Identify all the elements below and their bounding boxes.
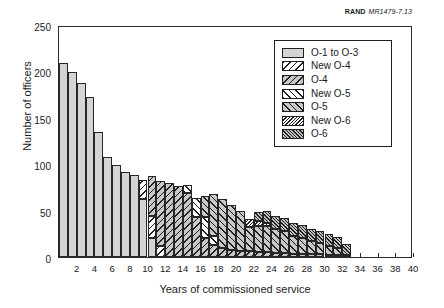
bar-year-10 [139, 180, 148, 257]
legend-swatch-icon [282, 89, 304, 99]
bar-segment-o-4 [307, 254, 316, 257]
bar-year-31 [325, 234, 334, 257]
bar-segment-o-4 [201, 238, 210, 257]
bar-year-13 [165, 183, 174, 257]
bar-segment-o-4 [218, 248, 227, 257]
bar-year-12 [156, 181, 165, 257]
bar-year-15 [183, 185, 192, 257]
legend-swatch-icon [282, 129, 304, 139]
bar-segment-o-6 [342, 244, 351, 255]
bar-segment-new-o-5 [201, 217, 210, 237]
x-axis-title: Years of commissioned service [58, 283, 412, 295]
source-credit: RANDMR1479-7.13 [345, 8, 412, 15]
legend-item-new-o-4: New O-4 [282, 60, 385, 74]
bar-year-17 [201, 196, 210, 257]
bar-segment-o-6 [289, 223, 298, 236]
bar-segment-o-6 [271, 216, 280, 229]
x-axis-tick-mark [413, 253, 414, 257]
bar-segment-o-6 [316, 231, 325, 243]
bar-year-14 [174, 186, 183, 257]
bar-segment-o-5 [201, 196, 210, 217]
legend-swatch-icon [282, 102, 304, 112]
bar-segment-o-1-to-o-3 [59, 63, 68, 257]
bar-segment-o-1-to-o-3 [112, 165, 121, 257]
bar-segment-o-5 [298, 238, 307, 255]
bar-segment-new-o-6 [254, 221, 263, 227]
bar-segment-o-1-to-o-3 [94, 132, 103, 257]
bar-segment-o-4 [148, 176, 157, 216]
bar-year-4 [86, 97, 95, 257]
legend-swatch-icon [282, 48, 304, 58]
bar-segment-o-4 [316, 254, 325, 257]
bar-segment-o-1-to-o-3 [103, 157, 112, 257]
bar-segment-o-4 [174, 186, 183, 257]
bar-segment-o-5 [280, 231, 289, 253]
bar-segment-o-6 [333, 237, 342, 248]
bar-segment-o-1-to-o-3 [77, 83, 86, 257]
bar-segment-new-o-5 [209, 236, 218, 245]
legend-item-o-4: O-4 [282, 73, 385, 87]
bar-segment-new-o-4 [156, 246, 165, 257]
bar-segment-o-4 [289, 254, 298, 257]
bar-segment-o-5 [209, 194, 218, 236]
legend-item-new-o-5: New O-5 [282, 87, 385, 101]
bar-segment-o-4 [280, 253, 289, 257]
bar-year-30 [316, 231, 325, 257]
legend-item-o-5: O-5 [282, 100, 385, 114]
bar-year-26 [280, 218, 289, 257]
legend-item-o-1-to-o-3: O-1 to O-3 [282, 46, 385, 60]
bar-segment-new-o-5 [183, 185, 192, 193]
bar-year-21 [236, 211, 245, 257]
bar-segment-o-4 [263, 252, 272, 257]
bar-segment-o-4 [245, 251, 254, 257]
bar-year-11 [148, 176, 157, 257]
bar-segment-o-6 [263, 211, 272, 223]
bar-segment-o-5 [289, 236, 298, 255]
legend-item-o-6: O-6 [282, 128, 385, 142]
y-axis-tick-label: 150 [21, 114, 51, 125]
bar-segment-o-1-to-o-3 [121, 172, 130, 257]
bar-segment-o-4 [325, 255, 334, 257]
bar-segment-o-4 [333, 255, 342, 257]
bar-year-9 [130, 175, 139, 257]
y-axis-tick-label: 250 [21, 22, 51, 33]
bar-segment-o-6 [298, 225, 307, 238]
y-axis-tick-label: 50 [21, 207, 51, 218]
bar-segment-o-6 [325, 234, 334, 246]
bar-segment-o-5 [218, 199, 227, 247]
legend-item-new-o-6: New O-6 [282, 114, 385, 128]
bar-year-16 [192, 198, 201, 257]
bar-segment-o-1-to-o-3 [139, 199, 148, 257]
bar-year-27 [289, 223, 298, 257]
bar-segment-o-4 [236, 251, 245, 257]
bar-year-18 [209, 194, 218, 257]
bar-year-20 [227, 205, 236, 257]
bar-year-7 [112, 165, 121, 257]
bar-year-19 [218, 199, 227, 257]
bar-segment-o-4 [254, 252, 263, 257]
bar-segment-o-5 [271, 229, 280, 253]
legend-item-label: New O-5 [311, 89, 350, 99]
bar-segment-o-5 [236, 211, 245, 251]
bar-year-29 [307, 229, 316, 257]
bar-year-24 [263, 211, 272, 257]
bar-year-22 [245, 219, 254, 257]
bar-year-32 [333, 237, 342, 257]
bar-segment-o-5 [333, 248, 342, 255]
y-axis-tick-label: 0 [21, 254, 51, 265]
x-axis-tick-mark [360, 253, 361, 257]
bar-segment-o-5 [316, 243, 325, 254]
bar-segment-o-4 [227, 250, 236, 257]
y-axis-tick-label: 200 [21, 68, 51, 79]
bar-segment-o-4 [342, 255, 351, 257]
bar-segment-new-o-6 [245, 219, 254, 227]
bar-segment-o-6 [307, 229, 316, 241]
bar-segment-o-1-to-o-3 [130, 175, 139, 257]
legend-swatch-icon [282, 61, 304, 71]
figure-id: MR1479-7.13 [368, 8, 412, 15]
legend-item-label: O-4 [311, 75, 328, 85]
bar-year-33 [342, 244, 351, 257]
bar-segment-o-5 [325, 246, 334, 255]
bar-segment-o-5 [307, 241, 316, 254]
y-axis-tick-label: 100 [21, 161, 51, 172]
